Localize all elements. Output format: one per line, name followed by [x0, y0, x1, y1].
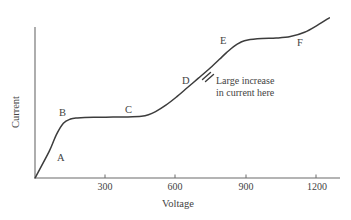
x-tick-label-900: 900	[239, 181, 254, 193]
annotation-line-2: in current here	[216, 87, 274, 99]
current-voltage-chart: A B C D E F Large increase in current he…	[0, 0, 351, 220]
annotation-line-1: Large increase	[216, 75, 274, 87]
x-tick-label-600: 600	[168, 181, 183, 193]
curve-point-label-f: F	[297, 37, 303, 49]
curve-point-label-b: B	[59, 107, 66, 119]
x-tick-label-1200: 1200	[307, 181, 327, 193]
curve-point-label-e: E	[220, 35, 227, 47]
y-axis-title: Current	[10, 96, 22, 128]
x-axis-title: Voltage	[162, 198, 194, 210]
large-increase-annotation: Large increase in current here	[216, 75, 274, 99]
x-tick-label-300: 300	[98, 181, 113, 193]
curve-point-label-a: A	[57, 152, 65, 164]
curve-point-label-c: C	[125, 104, 132, 116]
curve-point-label-d: D	[182, 75, 190, 87]
current-voltage-curve	[35, 18, 329, 178]
